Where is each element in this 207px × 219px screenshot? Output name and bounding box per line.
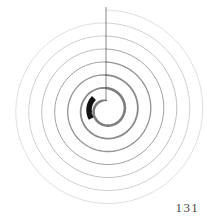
page-number: 131: [176, 201, 199, 214]
scanned-page: 131: [0, 0, 207, 219]
inner-hub-hole: [97, 101, 115, 119]
spiral-figure: [0, 0, 207, 219]
